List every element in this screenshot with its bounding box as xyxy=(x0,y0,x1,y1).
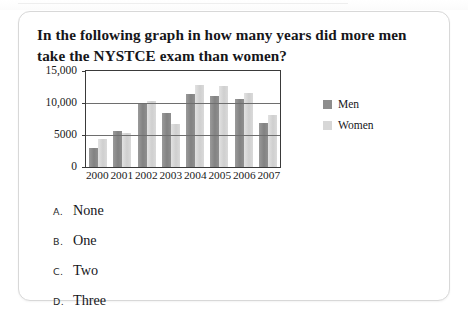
bar-men-2005 xyxy=(210,96,219,167)
x-axis-tick-label: 2005 xyxy=(208,169,233,181)
option-letter: D. xyxy=(53,296,73,307)
answer-option-c[interactable]: C.Two xyxy=(53,262,393,279)
bar-women-2003 xyxy=(171,124,180,167)
answer-options: A.NoneB.OneC.TwoD.Three xyxy=(53,202,393,317)
answer-option-b[interactable]: B.One xyxy=(53,232,393,249)
x-axis-tick-label: 2001 xyxy=(110,169,135,181)
legend-swatch-women-icon xyxy=(323,121,332,130)
page-top-artifact xyxy=(0,0,468,10)
gridline xyxy=(86,103,280,104)
x-axis-tick-label: 2004 xyxy=(183,169,208,181)
plot-area xyxy=(85,70,281,168)
answer-option-d[interactable]: D.Three xyxy=(53,292,393,309)
option-text: Three xyxy=(73,292,106,309)
bar-group xyxy=(207,71,231,167)
y-axis-tick-label: 10,000 xyxy=(45,96,77,108)
option-letter: B. xyxy=(53,236,73,247)
bar-men-2003 xyxy=(162,113,171,167)
bar-group xyxy=(256,71,280,167)
chart-legend: MenWomen xyxy=(323,98,423,140)
y-axis-tick-label: 15,000 xyxy=(45,64,77,76)
legend-label: Women xyxy=(338,119,373,131)
x-axis-tick-label: 2002 xyxy=(134,169,159,181)
bar-women-2001 xyxy=(122,133,131,167)
bar-group xyxy=(159,71,183,167)
bar-men-2000 xyxy=(89,148,98,167)
bar-women-2007 xyxy=(268,115,277,167)
option-text: None xyxy=(73,202,104,219)
y-axis-tick xyxy=(82,167,86,168)
bar-women-2004 xyxy=(195,85,204,167)
x-axis-tick-label: 2007 xyxy=(257,169,282,181)
bar-chart: 0500010,00015,000 2000200120022003200420… xyxy=(23,70,433,192)
y-axis-tick-label: 0 xyxy=(71,160,77,172)
bar-group xyxy=(232,71,256,167)
bar-groups xyxy=(86,71,280,167)
x-axis-tick-label: 2000 xyxy=(85,169,110,181)
legend-swatch-men-icon xyxy=(323,100,332,109)
bar-group xyxy=(135,71,159,167)
y-axis-tick xyxy=(82,103,86,104)
question-card: In the following graph in how many years… xyxy=(18,11,450,301)
legend-item-men: Men xyxy=(323,98,423,110)
question-text: In the following graph in how many years… xyxy=(37,24,433,66)
x-axis-tick-label: 2003 xyxy=(159,169,184,181)
bar-men-2006 xyxy=(235,99,244,167)
bar-men-2001 xyxy=(113,131,122,167)
bar-women-2005 xyxy=(219,86,228,167)
y-axis-tick xyxy=(82,71,86,72)
y-axis-tick xyxy=(82,135,86,136)
option-text: One xyxy=(73,232,97,249)
option-text: Two xyxy=(73,262,98,279)
bar-group xyxy=(86,71,110,167)
x-axis-labels: 20002001200220032004200520062007 xyxy=(85,169,281,181)
bar-men-2007 xyxy=(259,123,268,167)
option-letter: C. xyxy=(53,266,73,277)
bar-women-2000 xyxy=(98,139,107,167)
y-axis-labels: 0500010,00015,000 xyxy=(23,70,81,167)
gridline xyxy=(86,135,280,136)
legend-label: Men xyxy=(338,98,359,110)
y-axis-tick-label: 5000 xyxy=(54,128,77,140)
answer-option-a[interactable]: A.None xyxy=(53,202,393,219)
bar-men-2004 xyxy=(186,94,195,167)
bar-women-2006 xyxy=(244,93,253,167)
option-letter: A. xyxy=(53,206,73,217)
bar-group xyxy=(183,71,207,167)
x-axis-tick-label: 2006 xyxy=(232,169,257,181)
bar-group xyxy=(110,71,134,167)
legend-item-women: Women xyxy=(323,119,423,131)
